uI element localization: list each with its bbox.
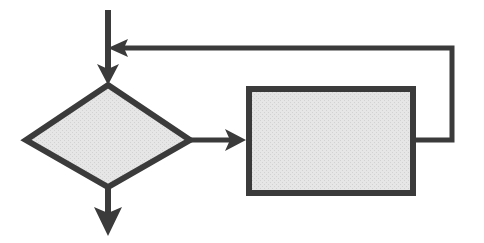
- flowchart-svg: [0, 0, 484, 243]
- exit-connector: [94, 187, 122, 236]
- diagram-canvas: [0, 0, 484, 243]
- decision-diamond-shape[interactable]: [26, 85, 190, 187]
- decision-node[interactable]: [26, 85, 190, 187]
- decision-to-process-connector: [188, 129, 246, 151]
- process-rectangle-shape[interactable]: [249, 89, 413, 193]
- process-node[interactable]: [249, 89, 413, 193]
